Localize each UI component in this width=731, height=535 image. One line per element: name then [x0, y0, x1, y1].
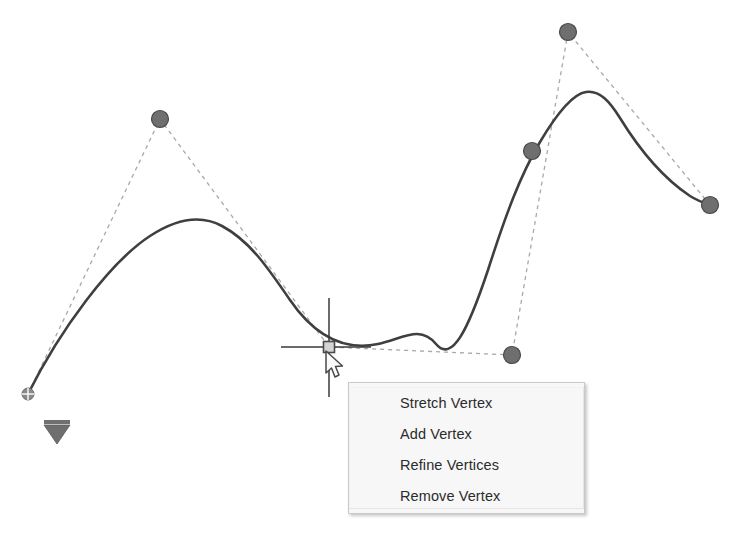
vertex-context-menu[interactable]: Stretch Vertex Add Vertex Refine Vertice… — [348, 382, 585, 514]
vertex-marker-4[interactable] — [504, 347, 521, 364]
vertex-marker-1[interactable] — [152, 111, 169, 128]
menu-item-remove-vertex[interactable]: Remove Vertex — [350, 481, 583, 512]
spline-curve[interactable] — [28, 92, 710, 394]
menu-item-refine-vertices[interactable]: Refine Vertices — [350, 450, 583, 481]
control-polygon-guide — [28, 32, 710, 394]
vertex-marker-5[interactable] — [702, 197, 719, 214]
vertex-marker-2[interactable] — [560, 24, 577, 41]
context-menu-inner: Stretch Vertex Add Vertex Refine Vertice… — [349, 387, 584, 509]
polyline-editor-canvas: Stretch Vertex Add Vertex Refine Vertice… — [0, 0, 731, 535]
vertex-marker-3[interactable] — [524, 143, 541, 160]
menu-item-stretch-vertex[interactable]: Stretch Vertex — [350, 388, 583, 419]
direction-arrow-marker — [44, 420, 70, 444]
start-cross-marker[interactable] — [22, 388, 34, 400]
menu-item-add-vertex[interactable]: Add Vertex — [350, 419, 583, 450]
selected-vertex-grip[interactable] — [324, 342, 335, 353]
